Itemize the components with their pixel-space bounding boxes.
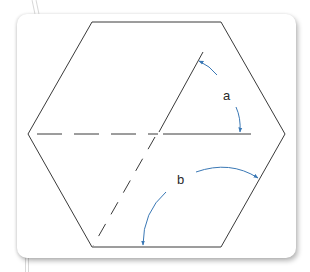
angle-a-upper-arrow: [199, 61, 217, 75]
angle-b-left-arrow: [143, 192, 166, 245]
angle-b-right-arrow: [196, 167, 258, 178]
angle-a-lower-arrow: [236, 107, 240, 132]
diagonal-solid-line: [159, 52, 203, 132]
angle-a-label: a: [223, 88, 231, 103]
hexagon-angle-diagram: a b: [0, 0, 310, 272]
diagonal-dashed-line: [93, 137, 155, 246]
angle-b-label: b: [177, 172, 184, 187]
